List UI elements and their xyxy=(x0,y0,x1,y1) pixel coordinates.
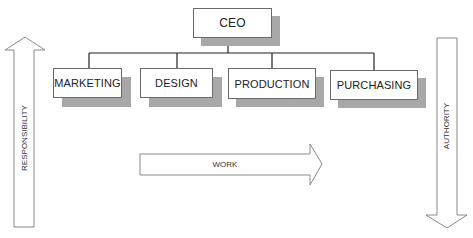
responsibility-label: RESPONSIBILITY xyxy=(20,87,30,189)
purchasing-box: PURCHASING xyxy=(330,70,418,100)
production-label: PRODUCTION xyxy=(235,78,310,90)
design-box: DESIGN xyxy=(140,68,213,98)
purchasing-label: PURCHASING xyxy=(337,79,411,91)
work-label: WORK xyxy=(140,160,310,170)
marketing-box: MARKETING xyxy=(53,68,122,98)
ceo-box: CEO xyxy=(193,8,272,38)
design-label: DESIGN xyxy=(155,77,198,89)
ceo-label: CEO xyxy=(219,16,245,30)
authority-label: AUTHORITY xyxy=(442,91,452,161)
production-box: PRODUCTION xyxy=(228,68,316,99)
marketing-label: MARKETING xyxy=(54,77,120,89)
org-chart-diagram: CEO MARKETING DESIGN PRODUCTION PURCHASI… xyxy=(0,0,473,238)
